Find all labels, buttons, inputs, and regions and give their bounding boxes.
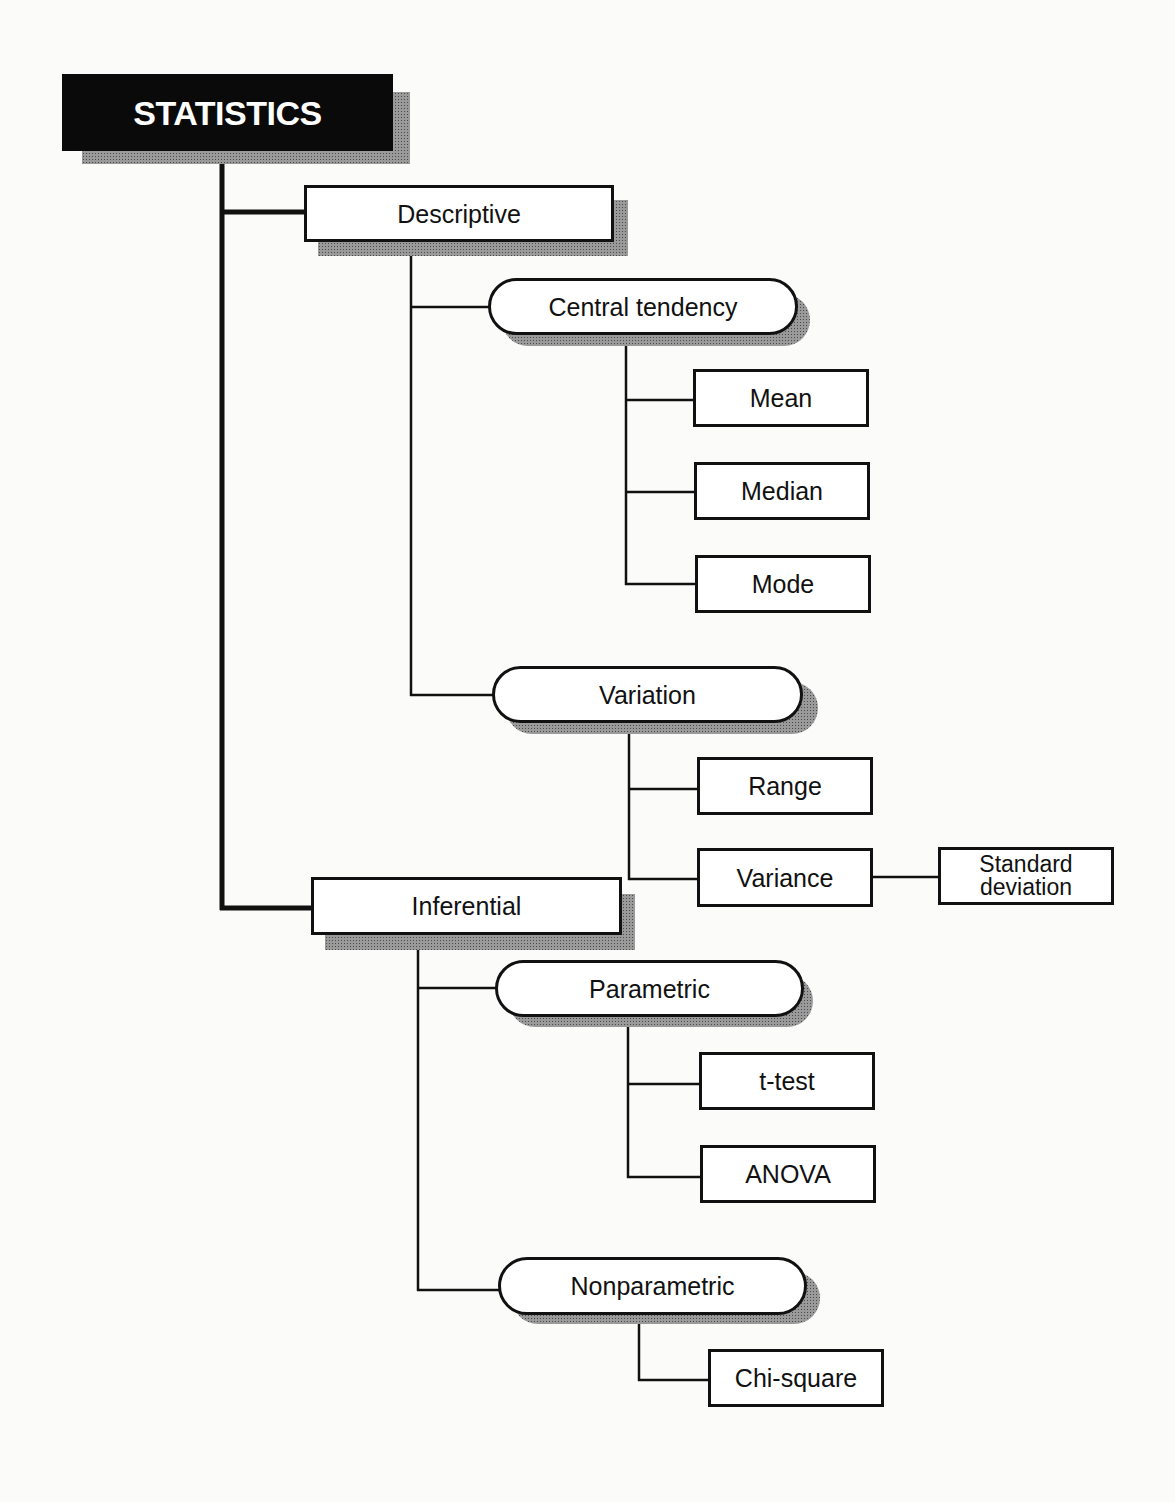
- node-descriptive: Descriptive: [304, 185, 614, 242]
- node-label: Descriptive: [397, 202, 521, 226]
- node-central-tendency: Central tendency: [488, 278, 798, 335]
- node-label: Range: [748, 774, 822, 798]
- node-label: Chi-square: [735, 1366, 857, 1390]
- node-label: Mean: [750, 386, 813, 410]
- node-median: Median: [694, 462, 870, 520]
- node-mean: Mean: [693, 369, 869, 427]
- node-nonparametric: Nonparametric: [498, 1257, 807, 1315]
- node-label: Variance: [737, 866, 834, 890]
- node-label-line1: Standard: [979, 853, 1072, 876]
- node-label: Inferential: [412, 894, 522, 918]
- node-inferential: Inferential: [311, 877, 622, 935]
- node-anova: ANOVA: [700, 1145, 876, 1203]
- node-chi-square: Chi-square: [708, 1349, 884, 1407]
- node-label: Median: [741, 479, 823, 503]
- node-label: Variation: [599, 683, 696, 707]
- node-variance: Variance: [697, 848, 873, 907]
- node-label-line2: deviation: [980, 876, 1072, 899]
- node-t-test: t-test: [699, 1052, 875, 1110]
- node-label: STATISTICS: [133, 101, 321, 125]
- node-label: Mode: [752, 572, 815, 596]
- node-parametric: Parametric: [495, 960, 804, 1017]
- node-mode: Mode: [695, 555, 871, 613]
- node-label: ANOVA: [745, 1162, 831, 1186]
- node-label: Nonparametric: [571, 1274, 735, 1298]
- node-variation: Variation: [492, 666, 803, 723]
- node-label: t-test: [759, 1069, 815, 1093]
- node-statistics: STATISTICS: [62, 74, 393, 151]
- node-label: Parametric: [589, 977, 710, 1001]
- node-range: Range: [697, 757, 873, 815]
- node-label: Central tendency: [548, 295, 737, 319]
- node-standard-deviation: Standard deviation: [938, 847, 1114, 905]
